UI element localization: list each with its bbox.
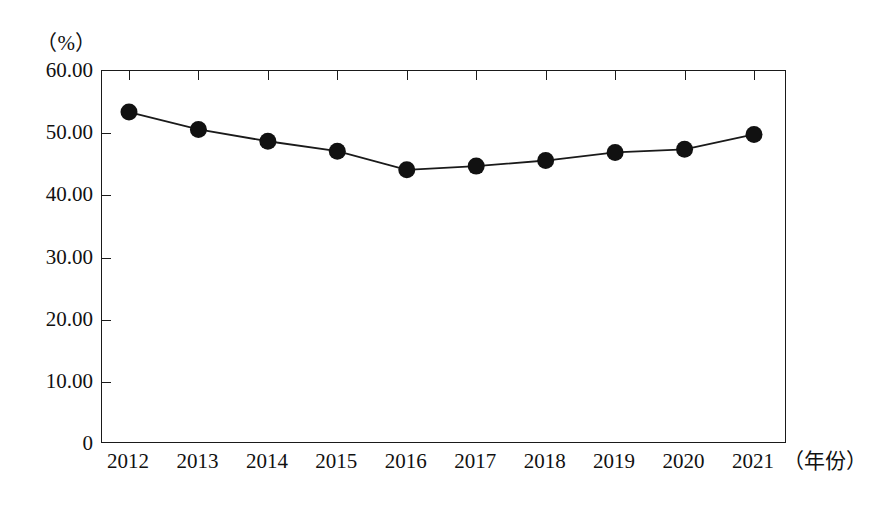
data-point bbox=[607, 144, 624, 161]
x-axis-tick-mark bbox=[615, 71, 616, 80]
data-point bbox=[676, 141, 693, 158]
data-point bbox=[746, 126, 763, 143]
y-axis-tick-mark bbox=[102, 258, 111, 259]
y-axis-tick-label: 10.00 bbox=[9, 370, 93, 391]
x-axis-tick-mark bbox=[476, 71, 477, 80]
y-axis-tick-label: 60.00 bbox=[9, 60, 93, 81]
x-axis-tick-mark bbox=[268, 71, 269, 80]
x-axis-tick-label: 2015 bbox=[315, 451, 357, 472]
x-axis-tick-label: 2021 bbox=[732, 451, 774, 472]
series-line-and-markers bbox=[102, 71, 787, 444]
x-axis-tick-mark bbox=[685, 71, 686, 80]
y-axis-tick-label: 40.00 bbox=[9, 184, 93, 205]
y-axis-tick-mark bbox=[102, 320, 111, 321]
data-point bbox=[259, 133, 276, 150]
x-axis-tick-label: 2016 bbox=[385, 451, 427, 472]
x-axis-tick-mark bbox=[129, 71, 130, 80]
data-point bbox=[537, 152, 554, 169]
data-point bbox=[398, 161, 415, 178]
x-axis-unit-label: （年份） bbox=[783, 451, 867, 472]
data-point bbox=[190, 121, 207, 138]
x-axis-tick-label: 2017 bbox=[454, 451, 496, 472]
series-polyline bbox=[129, 112, 754, 170]
x-axis-tick-mark bbox=[337, 71, 338, 80]
y-axis-tick-mark bbox=[102, 133, 111, 134]
data-point bbox=[121, 104, 138, 121]
y-axis-tick-label: 50.00 bbox=[9, 122, 93, 143]
data-point bbox=[329, 143, 346, 160]
x-axis-tick-mark bbox=[407, 71, 408, 80]
x-axis-tick-mark bbox=[754, 71, 755, 80]
plot-area bbox=[101, 70, 786, 443]
y-axis-tick-label: 20.00 bbox=[9, 308, 93, 329]
y-axis-tick-label: 30.00 bbox=[9, 246, 93, 267]
y-axis-tick-labels: 010.0020.0030.0040.0050.0060.00 bbox=[9, 70, 93, 443]
y-axis-tick-label: 0 bbox=[9, 433, 93, 454]
y-axis-unit-label: （%） bbox=[36, 26, 97, 56]
y-axis-tick-mark bbox=[102, 382, 111, 383]
x-axis-tick-labels: 2012201320142015201620172018201920202021… bbox=[101, 451, 786, 485]
line-chart-figure: （%） 010.0020.0030.0040.0050.0060.00 2012… bbox=[0, 0, 879, 509]
x-axis-tick-label: 2019 bbox=[593, 451, 635, 472]
x-axis-tick-mark bbox=[546, 71, 547, 80]
x-axis-tick-label: 2013 bbox=[176, 451, 218, 472]
y-axis-tick-mark bbox=[102, 195, 111, 196]
x-axis-tick-label: 2018 bbox=[524, 451, 566, 472]
x-axis-tick-label: 2012 bbox=[107, 451, 149, 472]
data-point bbox=[468, 158, 485, 175]
x-axis-tick-mark bbox=[198, 71, 199, 80]
x-axis-tick-label: 2014 bbox=[246, 451, 288, 472]
x-axis-tick-label: 2020 bbox=[663, 451, 705, 472]
